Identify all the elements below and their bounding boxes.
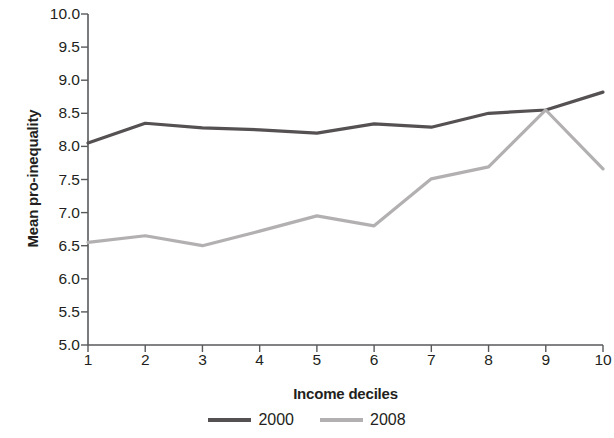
x-tick-label: 10	[583, 352, 614, 368]
y-tick-label: 7.5	[36, 172, 80, 188]
y-tick-label: 7.0	[36, 205, 80, 221]
series-line-2000	[88, 92, 603, 143]
x-tick-label: 2	[125, 352, 165, 368]
legend-swatch	[320, 418, 363, 422]
y-tick-label: 9.5	[36, 39, 80, 55]
legend-swatch	[208, 418, 251, 422]
y-tick-label: 10.0	[36, 6, 80, 22]
y-tick-label: 5.0	[36, 337, 80, 353]
x-tick-label: 4	[240, 352, 280, 368]
y-tick-label: 9.0	[36, 72, 80, 88]
y-axis-tick-labels: 10.09.59.08.58.07.57.06.56.05.55.0	[30, 0, 80, 438]
y-tick-label: 5.5	[36, 304, 80, 320]
x-tick-label: 9	[526, 352, 566, 368]
legend-label: 2008	[370, 412, 406, 428]
plot-area	[0, 0, 614, 438]
x-tick-label: 1	[68, 352, 108, 368]
x-tick-label: 7	[411, 352, 451, 368]
y-tick-label: 6.0	[36, 271, 80, 287]
x-tick-label: 6	[354, 352, 394, 368]
x-tick-label: 5	[297, 352, 337, 368]
chart-legend: 20002008	[0, 412, 614, 428]
y-tick-label: 8.5	[36, 105, 80, 121]
legend-label: 2000	[258, 412, 294, 428]
chart-figure: Mean pro-inequality 10.09.59.08.58.07.57…	[0, 0, 614, 438]
y-tick-label: 6.5	[36, 238, 80, 254]
y-tick-label: 8.0	[36, 138, 80, 154]
x-tick-label: 3	[182, 352, 222, 368]
legend-entry: 2008	[320, 412, 406, 428]
legend-entry: 2000	[208, 412, 294, 428]
x-axis-title: Income deciles	[88, 385, 603, 402]
series-line-2008	[88, 110, 603, 246]
x-tick-label: 8	[469, 352, 509, 368]
